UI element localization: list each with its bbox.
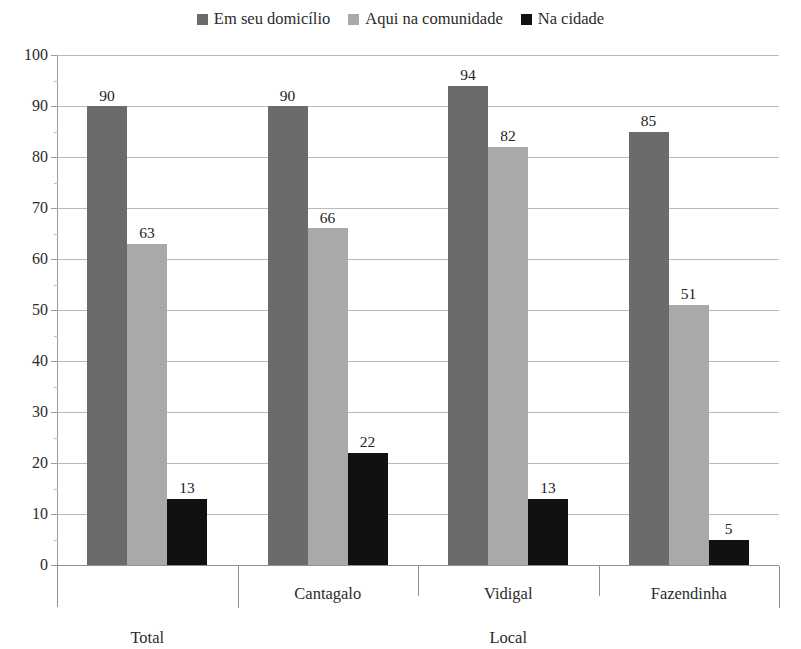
x-axis-tier-groups: TotalLocal: [57, 608, 780, 649]
tier-boundary: [238, 566, 239, 607]
legend-entry: Na cidade: [521, 11, 604, 28]
y-axis-tick-label: 80: [0, 149, 48, 165]
y-axis-tick-label: 60: [0, 251, 48, 267]
legend-swatch-dark-gray: [197, 14, 208, 25]
bar: 82: [488, 147, 528, 565]
bar: 90: [87, 106, 127, 565]
y-axis-tick-label: 10: [0, 506, 48, 522]
bar-value-label: 13: [179, 480, 195, 496]
bar-value-label: 85: [641, 113, 657, 129]
legend-label: Em seu domicílio: [214, 11, 330, 28]
x-axis-location-label: Cantagalo: [238, 586, 419, 603]
bar: 13: [167, 499, 207, 565]
bar-value-label: 82: [500, 128, 516, 144]
bar: 13: [528, 499, 568, 565]
bar: 5: [709, 540, 749, 566]
bar-value-label: 63: [139, 225, 155, 241]
y-axis-tick-label: 40: [0, 353, 48, 369]
bar-value-label: 90: [99, 88, 115, 104]
bar: 90: [268, 106, 308, 565]
y-axis-tick-label: 100: [0, 47, 48, 63]
bar-value-label: 66: [320, 210, 336, 226]
x-axis-location-label: Vidigal: [418, 586, 599, 603]
bar: 63: [127, 244, 167, 565]
tier-boundary: [779, 566, 780, 607]
bar-value-label: 90: [280, 88, 296, 104]
gridline: [57, 106, 779, 107]
plot-area: 90631390662294821385515: [57, 55, 779, 565]
chart-legend: Em seu domicílioAqui na comunidadeNa cid…: [0, 8, 801, 30]
bar: 94: [448, 86, 488, 565]
bar-value-label: 94: [460, 67, 476, 83]
y-axis-tick-label: 90: [0, 98, 48, 114]
legend-swatch-black: [521, 14, 532, 25]
y-axis-tick-label: 70: [0, 200, 48, 216]
x-axis-location-label: Fazendinha: [599, 586, 780, 603]
x-axis-group-label: Local: [238, 630, 780, 647]
y-axis-tick-label: 20: [0, 455, 48, 471]
bar-value-label: 22: [360, 434, 376, 450]
x-axis-tier-locations: CantagaloVidigalFazendinha: [57, 566, 780, 608]
x-axis-group-label: Total: [57, 630, 238, 647]
bar-value-label: 51: [681, 286, 697, 302]
bar: 51: [669, 305, 709, 565]
bar-value-label: 13: [540, 480, 556, 496]
tier-boundary: [57, 566, 58, 607]
y-axis-tick-label: 50: [0, 302, 48, 318]
bar: 66: [308, 228, 348, 565]
y-axis-tick-label: 0: [0, 557, 48, 573]
bar: 22: [348, 453, 388, 565]
gridline: [57, 157, 779, 158]
legend-label: Aqui na comunidade: [365, 11, 502, 28]
bar-value-label: 5: [725, 521, 733, 537]
legend-label: Na cidade: [538, 11, 604, 28]
gridline: [57, 208, 779, 209]
legend-swatch-light-gray: [348, 14, 359, 25]
gridline: [57, 55, 779, 56]
bar: 85: [629, 132, 669, 566]
y-axis-tick-label: 30: [0, 404, 48, 420]
legend-entry: Aqui na comunidade: [348, 11, 502, 28]
legend-entry: Em seu domicílio: [197, 11, 330, 28]
